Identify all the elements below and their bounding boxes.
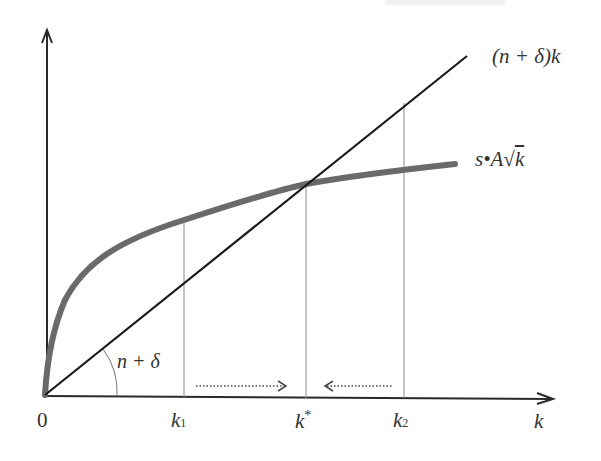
k2-label: k2 bbox=[393, 408, 408, 433]
line-label: (n + δ)k bbox=[492, 44, 560, 69]
origin-text: 0 bbox=[37, 408, 48, 432]
k2-sub: 2 bbox=[402, 416, 408, 430]
k1-main: k bbox=[171, 408, 180, 432]
angle-label: n + δ bbox=[117, 350, 160, 373]
kstar-main: k bbox=[295, 409, 304, 433]
curve-label-prefix: s•A bbox=[475, 147, 503, 171]
savings-curve bbox=[45, 164, 455, 395]
x-axis bbox=[45, 393, 553, 404]
k2-main: k bbox=[393, 408, 402, 432]
line-label-text: (n + δ)k bbox=[492, 44, 560, 68]
solow-growth-diagram bbox=[0, 0, 601, 461]
angle-arc bbox=[103, 349, 117, 396]
origin-label: 0 bbox=[37, 408, 48, 433]
sqrt-icon: √ bbox=[503, 147, 515, 171]
curve-label-radicand: k bbox=[515, 147, 524, 171]
angle-label-text: n + δ bbox=[117, 350, 160, 372]
curve-label: s•A√k bbox=[475, 147, 524, 172]
kstar-sup: * bbox=[304, 408, 311, 423]
kstar-label: k* bbox=[295, 408, 311, 434]
x-axis-label-text: k bbox=[534, 409, 543, 433]
arrow-right-icon bbox=[196, 381, 286, 391]
k1-sub: 1 bbox=[180, 416, 186, 430]
x-axis-label: k bbox=[534, 409, 543, 434]
arrow-left-icon bbox=[325, 381, 393, 391]
k1-label: k1 bbox=[171, 408, 186, 433]
